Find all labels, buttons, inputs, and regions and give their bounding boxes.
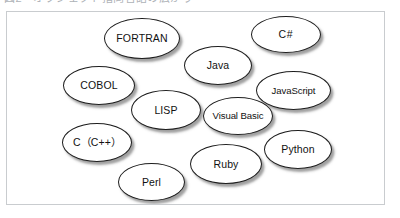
clipped-caption-text: 図2 オブジェクト指向言語の広がり <box>4 0 193 5</box>
ellipse-node-c-cpp: C（C++） <box>62 123 132 162</box>
ellipse-node-csharp: C# <box>251 16 321 53</box>
ellipse-node-label: C（C++） <box>73 137 121 148</box>
diagram-frame: FORTRANC#JavaCOBOLJavaScriptLISPVisual B… <box>6 11 385 205</box>
ellipse-node-label: Ruby <box>214 158 239 169</box>
ellipse-node-label: FORTRAN <box>116 33 167 44</box>
ellipse-node-python: Python <box>264 130 332 169</box>
ellipse-node-visual-basic: Visual Basic <box>203 97 273 135</box>
ellipse-node-ruby: Ruby <box>190 144 262 184</box>
clipped-caption-strip: 図2 オブジェクト指向言語の広がり <box>0 0 400 9</box>
ellipse-node-javascript: JavaScript <box>256 71 331 110</box>
ellipse-node-label: Perl <box>142 176 161 187</box>
ellipse-node-lisp: LISP <box>131 90 201 130</box>
ellipse-node-java: Java <box>184 46 252 85</box>
ellipse-node-label: JavaScript <box>272 85 316 95</box>
ellipse-node-label: Python <box>281 144 314 155</box>
ellipse-node-perl: Perl <box>118 163 185 201</box>
ellipse-node-label: COBOL <box>80 80 117 91</box>
ellipse-node-label: C# <box>278 29 293 40</box>
ellipse-node-fortran: FORTRAN <box>104 18 180 59</box>
ellipse-node-cobol: COBOL <box>63 66 135 105</box>
ellipse-node-label: Java <box>207 60 230 71</box>
ellipse-node-label: LISP <box>154 104 177 115</box>
screenshot-root: 図2 オブジェクト指向言語の広がり FORTRANC#JavaCOBOLJava… <box>0 0 400 218</box>
ellipse-node-label: Visual Basic <box>213 111 264 121</box>
